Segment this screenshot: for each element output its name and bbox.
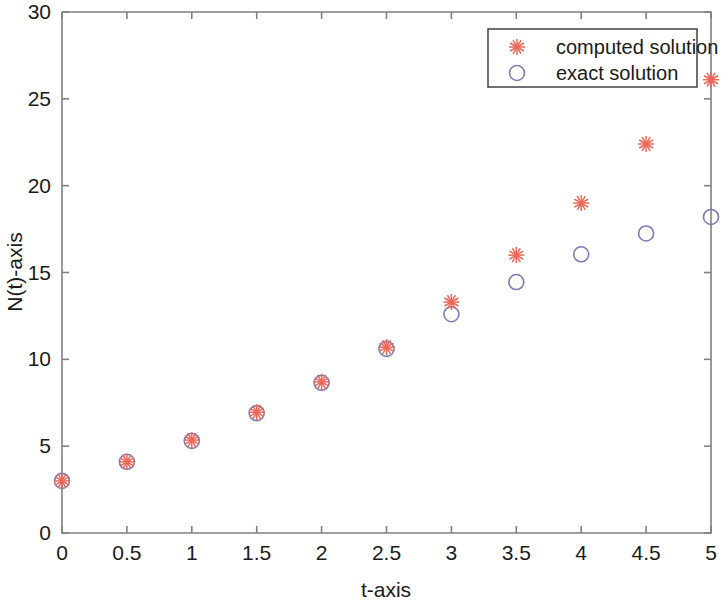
data-point-computed [508,247,524,263]
data-point-exact [509,275,524,290]
y-tick-label: 20 [28,174,51,197]
y-tick-label: 5 [39,434,51,457]
data-point-exact [639,226,654,241]
data-point-computed [638,136,654,152]
data-point-computed [703,72,719,88]
y-tick-label: 0 [39,521,51,544]
figure-container: 00.511.522.533.544.55 051015202530 t-axi… [0,0,722,607]
data-point-exact [574,247,589,262]
data-point-computed [573,195,589,211]
y-axis-label: N(t)-axis [3,232,26,311]
y-tick-label: 30 [28,0,51,23]
y-tick-label: 10 [28,347,51,370]
scatter-plot: 00.511.522.533.544.55 051015202530 t-axi… [0,0,722,607]
y-axis-ticks [62,12,711,533]
x-tick-label: 2 [316,541,328,564]
x-tick-label: 0 [56,541,68,564]
x-tick-label: 4.5 [631,541,660,564]
legend-label-exact-solution: exact solution [556,62,678,84]
x-tick-label: 3.5 [502,541,531,564]
x-axis-ticks [62,12,711,533]
x-tick-label: 0.5 [112,541,141,564]
axis-frame [62,12,711,533]
x-tick-label: 1 [186,541,198,564]
legend-label-computed-solution: computed solution [556,36,718,58]
y-tick-label: 25 [28,87,51,110]
x-axis-tick-labels: 00.511.522.533.544.55 [56,541,717,564]
x-tick-label: 4 [575,541,587,564]
x-axis-label: t-axis [361,578,411,601]
x-tick-label: 3 [446,541,458,564]
x-tick-label: 2.5 [372,541,401,564]
legend: computed solution exact solution [488,29,718,87]
x-tick-label: 1.5 [242,541,271,564]
x-tick-label: 5 [705,541,717,564]
series-computed-solution [54,72,719,489]
y-axis-tick-labels: 051015202530 [28,0,51,544]
data-point-computed [443,294,459,310]
y-tick-label: 15 [28,261,51,284]
